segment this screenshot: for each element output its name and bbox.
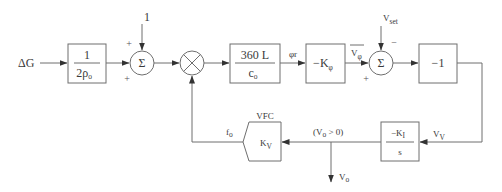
block4-label: −1 (432, 56, 445, 70)
block-inv-2rho: 1 2ρo (68, 44, 106, 83)
signal-label-v-phi: Vφ (351, 48, 363, 61)
sum2-top-input-label: Vset (383, 13, 399, 26)
sum1-left-sign: + (124, 73, 130, 84)
block-neg-one: −1 (419, 44, 457, 83)
condition-label: (Vo > 0) (313, 127, 343, 139)
sum-junction-1: Σ (130, 51, 154, 75)
sigma-symbol: Σ (378, 56, 385, 70)
block1-numerator: 1 (84, 48, 90, 62)
block5-denominator: s (398, 147, 402, 157)
input-label-delta-g: ΔG (18, 56, 35, 70)
sigma-symbol: Σ (139, 56, 146, 70)
block-vfc: VFC KV (243, 111, 281, 161)
block2-numerator: 360 L (241, 48, 269, 62)
sum1-top-input-label: 1 (144, 10, 150, 24)
block-diagram: ΔG 1 2ρo Σ 1 + + 360 L co φr −Kφ Vφ (0, 0, 502, 192)
output-label-vo: Vo (339, 172, 350, 184)
block-neg-kphi: −Kφ (306, 44, 345, 83)
signal-label-phi-r: φr (289, 49, 297, 59)
vfc-title: VFC (256, 111, 274, 121)
block-360L-co: 360 L co (230, 44, 280, 83)
sum1-top-sign: + (126, 38, 132, 49)
sum2-left-sign: + (363, 73, 369, 84)
sum-junction-2: Σ (369, 51, 393, 75)
feedback-path-to-multiplier (192, 76, 243, 142)
signal-label-f-o: fo (226, 127, 233, 139)
multiplier-junction (180, 51, 204, 75)
block-integrator: −KI s (381, 122, 419, 161)
signal-label-v-v: VV (433, 129, 446, 142)
sum2-top-sign: − (391, 37, 397, 48)
